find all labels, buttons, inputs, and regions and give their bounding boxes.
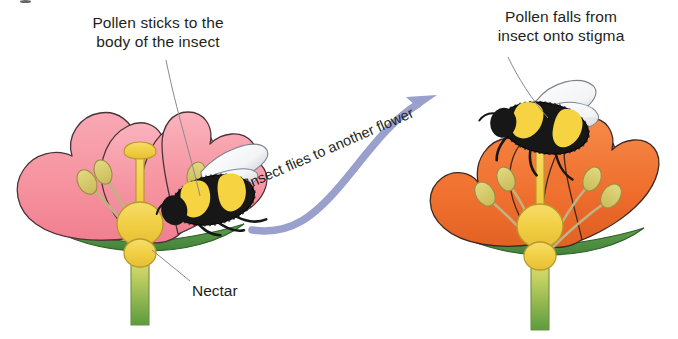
pollination-diagram: Pollen sticks to the body of the insect … bbox=[0, 0, 678, 339]
caption-pollen-sticks: Pollen sticks to the body of the insect bbox=[48, 13, 268, 51]
label-nectar: Nectar bbox=[192, 282, 238, 300]
caption-pollen-falls: Pollen falls from insect onto stigma bbox=[448, 7, 674, 45]
left-flower-group bbox=[17, 60, 282, 325]
right-flower-nectary bbox=[524, 242, 556, 270]
right-flower-group bbox=[430, 57, 659, 330]
left-flower-nectary bbox=[124, 239, 156, 267]
left-flower-stigma bbox=[124, 142, 156, 159]
nectar-leader-line bbox=[152, 250, 190, 281]
